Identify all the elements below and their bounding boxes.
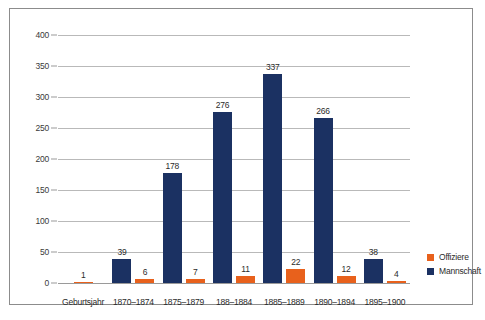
bar-value-label: 178 [165,161,179,171]
y-axis-tick-mark [51,97,57,98]
y-axis-tick-mark [51,221,57,222]
legend-swatch-icon [427,268,434,275]
bar-mannschaft: 39 [112,259,131,283]
y-axis-tick-mark [51,190,57,191]
bar-offiziere: 12 [337,276,356,283]
bar-value-label: 337 [266,62,280,72]
bar-value-label: 1 [81,270,86,280]
y-axis-tick-mark [51,159,57,160]
y-axis-tick-label: 350 [35,61,49,71]
bar-offiziere: 1 [74,282,93,283]
bar-offiziere: 22 [286,269,305,283]
x-axis-category-label: 1885–1889 [264,297,305,307]
bar-mannschaft: 276 [213,112,232,283]
y-axis-tick-label: 100 [35,216,49,226]
gridline [58,190,410,191]
x-axis-category-label: 188–1884 [216,297,252,307]
y-axis-tick-label: 200 [35,154,49,164]
gridline [58,128,410,129]
x-axis-category-label: 1895–1900 [364,297,405,307]
legend-item: Offiziere [427,252,481,262]
y-axis-tick-label: 50 [40,247,49,257]
bar-value-label: 11 [241,264,249,274]
legend-swatch-icon [427,254,434,261]
legend-item: Mannschaft [427,266,481,276]
gridline [58,221,410,222]
x-axis-title: Geburtsjahr [62,297,104,307]
bar-value-label: 22 [291,257,300,267]
x-axis-category-label: 1870–1874 [113,297,154,307]
bar-mannschaft: 266 [314,118,333,283]
gridline [58,97,410,98]
bar-mannschaft: 337 [263,74,282,283]
chart-frame: 050100150200250300350400 139617872761133… [9,8,473,305]
bar-value-label: 7 [193,267,198,277]
axis-baseline [58,283,410,284]
bar-offiziere: 11 [236,276,255,283]
bar-mannschaft: 38 [364,259,383,283]
bar-mannschaft: 178 [163,173,182,283]
bar-value-label: 4 [394,269,399,279]
gridline [58,252,410,253]
y-axis-tick-label: 300 [35,92,49,102]
bar-offiziere: 4 [387,281,406,283]
plot-area: 050100150200250300350400 139617872761133… [58,35,410,283]
x-axis-category-label: 1875–1879 [163,297,204,307]
y-axis-tick-label: 400 [35,30,49,40]
y-axis-tick-mark [51,128,57,129]
bar-offiziere: 6 [135,279,154,283]
y-axis-tick-label: 250 [35,123,49,133]
bar-value-label: 38 [369,247,378,257]
bar-offiziere: 7 [186,279,205,283]
bar-value-label: 6 [143,267,148,277]
x-axis-category-label: 1890–1894 [314,297,355,307]
gridline [58,159,410,160]
legend-label: Mannschaft [439,266,481,276]
gridline [58,66,410,67]
chart-legend: OffiziereMannschaft [427,252,481,276]
bar-value-label: 39 [117,247,126,257]
legend-label: Offiziere [439,252,469,262]
bar-value-label: 12 [342,264,351,274]
gridline [58,35,410,36]
y-axis-tick-label: 150 [35,185,49,195]
y-axis-tick-mark [51,252,57,253]
y-axis-tick-label: 0 [44,278,49,288]
y-axis-tick-mark [51,35,57,36]
y-axis-tick-mark [51,66,57,67]
bar-value-label: 266 [316,106,330,116]
y-axis-tick-mark [51,283,57,284]
bar-value-label: 276 [216,100,230,110]
